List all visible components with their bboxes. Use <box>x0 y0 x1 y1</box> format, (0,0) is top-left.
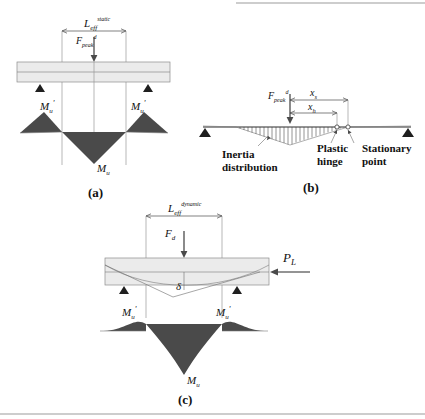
panel-b-plastic-hinge-marker <box>335 125 339 129</box>
panel-a-moment-left-label: Mu' <box>39 99 55 115</box>
panel-b: Fpeakd xs xh <box>199 87 414 195</box>
panel-b-dim-outer-label: xs <box>309 87 317 100</box>
panel-b-stationary-label-line2: point <box>362 155 387 167</box>
panel-c-moment-left-label: Mu' <box>121 305 137 321</box>
panel-a: Leffstatic Fpeakd <box>17 16 170 200</box>
panel-a-tag: (a) <box>88 185 103 200</box>
panel-b-tag: (b) <box>303 180 319 195</box>
panel-c-moment-center-label: Mu <box>186 374 200 389</box>
panel-a-moment-left-lobe <box>20 112 62 133</box>
panel-b-force-label: Fpeakd <box>267 89 289 103</box>
panel-c-axial-load-arrow <box>270 268 310 275</box>
panel-a-span-label: Leffstatic <box>83 16 110 32</box>
panel-b-force-arrow <box>287 94 294 124</box>
panel-b-inertia-label-line2: distribution <box>222 161 278 173</box>
panel-a-moment-center-label: Mu <box>96 162 110 177</box>
panel-c-axial-load-label: PL <box>282 250 296 267</box>
panel-a-support-right <box>143 84 153 92</box>
panel-c-moment-center-lobe <box>146 324 222 375</box>
panel-c-moment-left-lobe <box>100 322 146 331</box>
panel-b-support-left <box>199 128 211 137</box>
panel-c: Leffdynamic Fd PL δ <box>100 201 310 407</box>
panel-b-stationary-point-marker <box>346 125 350 129</box>
panel-c-force-label: Fd <box>164 227 176 242</box>
panel-a-moment-right-label: Mu' <box>130 99 146 115</box>
panel-c-beam <box>105 258 269 285</box>
panel-c-tag: (c) <box>178 392 192 407</box>
panel-b-inertia-label-line1: Inertia <box>222 148 255 160</box>
panel-b-hinge-label-line1: Plastic <box>317 142 348 154</box>
panel-c-support-left <box>119 286 129 294</box>
panel-c-force-arrow <box>181 231 188 258</box>
panel-b-inertia-leader <box>258 136 268 146</box>
panel-c-support-right <box>232 286 242 294</box>
panel-b-hinge-label-line2: hinge <box>317 155 343 167</box>
panel-c-moment-diagram <box>100 322 268 375</box>
panel-c-deflection-label: δ <box>176 280 182 292</box>
panel-a-moment-right-lobe <box>126 112 168 133</box>
panel-b-support-right <box>402 128 414 137</box>
panel-c-span-label: Leffdynamic <box>167 201 202 217</box>
panel-c-moment-right-lobe <box>222 322 268 331</box>
panel-b-stationary-label-line1: Stationary <box>362 142 412 154</box>
panel-a-support-left <box>35 84 45 92</box>
panel-b-dim-outer <box>290 98 348 127</box>
panel-b-dim-inner-label: xh <box>307 101 316 114</box>
panel-c-moment-right-label: Mu' <box>215 305 231 321</box>
panel-a-moment-center-lobe <box>62 132 126 164</box>
figure-container: Leffstatic Fpeakd <box>0 0 425 419</box>
